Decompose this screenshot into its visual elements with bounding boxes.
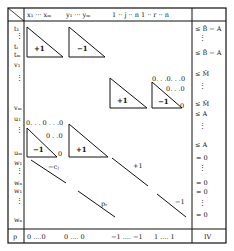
rhs-10: = 0: [196, 211, 208, 219]
zero-pattern-u3: 0: [58, 150, 62, 158]
row-label-vdots: ⋮: [16, 74, 23, 82]
matrix-diagram: x₁ ··· xₘ y₁ ··· yₘ 1 ·· j ·· n 1 ·· r ·…: [0, 0, 234, 251]
footer-seg-1: 0 ....0: [27, 233, 46, 241]
rhs-6: ≤ A: [195, 141, 208, 149]
block-v-z-label: −1: [158, 97, 169, 106]
block-v-y-label: +1: [117, 96, 128, 105]
rhs-4: ≤ M̄: [195, 100, 210, 108]
rhs-1: ≤ B̄ − A: [195, 25, 222, 33]
rhs-8: = 0: [196, 179, 208, 187]
footer-seg-2: 0 .... 0: [64, 233, 85, 241]
row-label-vdots: ⋮: [16, 126, 23, 134]
rhs-5: ≤ A: [195, 110, 208, 118]
row-label-tm: tₘ: [14, 51, 21, 59]
row-label-u1: u₁: [14, 115, 21, 123]
rhs-vdots: ⋮: [199, 34, 206, 42]
zero-pattern-u1: 0. . . 0 . . .0: [26, 119, 63, 127]
row-label-vdots: ⋮: [16, 32, 23, 40]
row-label-w1: w₁: [14, 159, 23, 167]
header-x: x₁ ··· xₘ: [27, 11, 51, 19]
footer-seg-3: −1 .... −1: [111, 233, 143, 241]
rhs-vdots: ⋮: [199, 164, 206, 172]
block-w-c-label: −cⱼ: [48, 163, 59, 171]
row-label-vm: vₘ: [13, 104, 22, 112]
block-u-x-label: −1: [33, 145, 44, 154]
row-label-um: uₘ: [14, 149, 22, 157]
footer-seg-4: 1 .... 1: [154, 233, 175, 241]
triangle-u-y: [69, 124, 108, 157]
row-label-v1: v₁: [13, 61, 21, 69]
row-label-zn: wₙ: [14, 216, 23, 224]
block-z-p-label: pᵣ: [101, 200, 107, 208]
diagonal-w-plus: [112, 158, 148, 186]
row-label-ti: tᵢ: [14, 43, 19, 51]
row-label-vdots: ⋮: [16, 197, 23, 205]
corner-diagonal: [8, 8, 24, 21]
block-w-plus-label: +1: [133, 162, 143, 170]
header-indices: 1 ·· j ·· n 1 ·· r ·· n: [112, 11, 169, 19]
zero-pattern-v2: 0. . .0: [166, 85, 185, 93]
rhs-footer: IV: [204, 233, 212, 241]
triangle-v-y: [110, 78, 147, 108]
rhs-vdots: ⋮: [199, 199, 206, 207]
diagonal-z-p: [78, 191, 115, 217]
rhs-7: = 0: [196, 154, 208, 162]
block-u-y-label: +1: [76, 145, 87, 154]
zero-pattern-v3: 0: [180, 102, 184, 110]
block-z-minus-label: −1: [175, 198, 185, 206]
row-label-wn: wₙ: [14, 179, 23, 187]
rhs-2: ≤ B̄ − A: [195, 49, 222, 57]
rhs-vdots: ⋮: [199, 122, 206, 130]
block-t-x-label: +1: [34, 44, 45, 53]
row-label-vdots: ⋮: [16, 167, 23, 175]
row-label-z1: w₁: [14, 187, 23, 195]
rhs-vdots: ⋮: [199, 82, 206, 90]
header-y: y₁ ··· yₘ: [65, 11, 90, 19]
zero-pattern-v1: 0. . .0. . .0: [152, 75, 185, 83]
zero-pattern-u2: 0 . .0: [46, 132, 63, 140]
block-t-y-label: −1: [77, 44, 88, 53]
rhs-9: = 0: [196, 188, 208, 196]
triangle-t-x: [27, 27, 63, 57]
rhs-3: ≤ M̄: [195, 70, 210, 78]
row-label-p: p: [13, 233, 17, 241]
